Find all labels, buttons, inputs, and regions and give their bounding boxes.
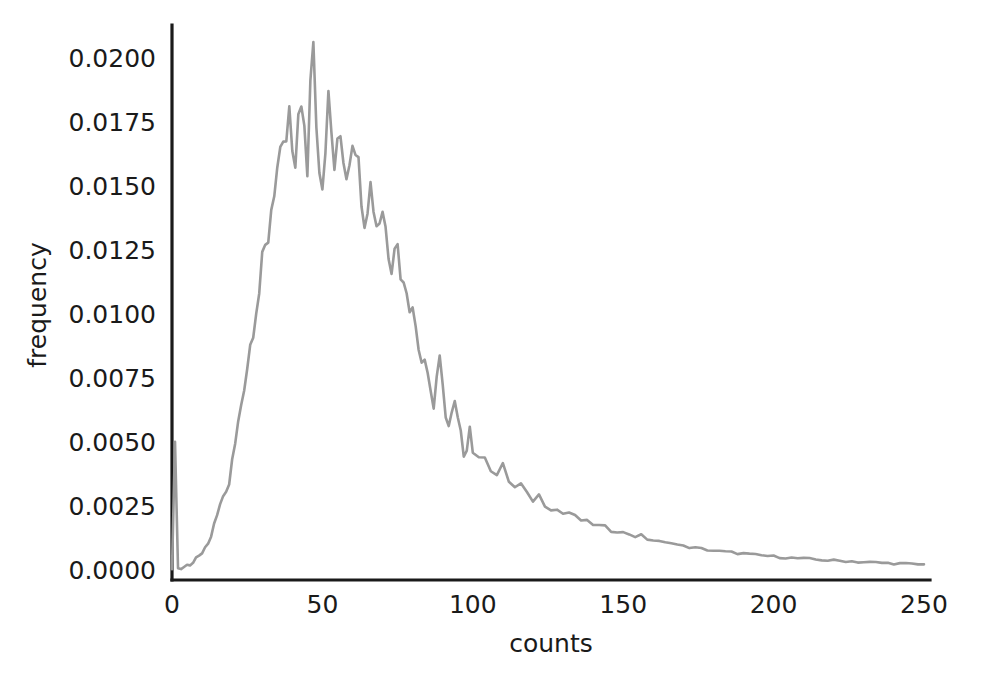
x-tick-label: 250	[900, 590, 948, 619]
x-axis-title: counts	[509, 629, 593, 658]
x-tick-label: 100	[449, 590, 497, 619]
y-tick-label: 0.0050	[69, 428, 156, 457]
x-tick-label: 50	[306, 590, 338, 619]
y-tick-label: 0.0025	[69, 492, 156, 521]
y-tick-label: 0.0175	[69, 108, 156, 137]
y-tick-label: 0.0075	[69, 364, 156, 393]
x-tick-label: 200	[750, 590, 798, 619]
y-tick-label: 0.0000	[69, 556, 156, 585]
y-axis-title: frequency	[23, 242, 52, 368]
y-axis-tick-labels: 0.00000.00250.00500.00750.01000.01250.01…	[69, 44, 156, 585]
y-tick-label: 0.0200	[69, 44, 156, 73]
x-tick-label: 0	[164, 590, 180, 619]
y-tick-label: 0.0150	[69, 172, 156, 201]
y-tick-label: 0.0125	[69, 236, 156, 265]
x-tick-label: 150	[599, 590, 647, 619]
y-tick-label: 0.0100	[69, 300, 156, 329]
chart-figure: 0.00000.00250.00500.00750.01000.01250.01…	[0, 0, 990, 684]
frequency-vs-counts-line-chart: 0.00000.00250.00500.00750.01000.01250.01…	[0, 0, 990, 684]
